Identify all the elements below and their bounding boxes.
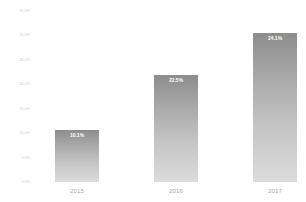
y-axis-tick-label: 5.0%: [0, 156, 30, 160]
y-axis-tick-label: 20.0%: [0, 82, 30, 86]
bar-value-label: 22.5%: [154, 77, 198, 83]
y-axis-tick-label: 15.0%: [0, 107, 30, 111]
y-axis-tick-label: 10.0%: [0, 131, 30, 135]
y-axis-tick-label: 30.0%: [0, 33, 30, 37]
x-axis-category-label: 2017: [245, 187, 305, 194]
bar-2017[interactable]: 24.1%: [253, 33, 297, 182]
bar-group-2017: 24.1% 2017: [253, 33, 297, 182]
bar-chart: 35.0% 30.0% 25.0% 20.0% 15.0% 10.0% 5.0%…: [0, 0, 306, 202]
y-axis-tick-label: 25.0%: [0, 58, 30, 62]
y-axis-tick-label: 35.0%: [0, 9, 30, 13]
plot-area: 10.1% 2015 22.5% 2016 24.1% 2017: [34, 0, 306, 202]
y-axis-tick-label: 0.0%: [0, 180, 30, 184]
bar-value-label: 24.1%: [253, 35, 297, 41]
x-axis-category-label: 2015: [47, 187, 107, 194]
bar-2016[interactable]: 22.5%: [154, 75, 198, 182]
x-axis-category-label: 2016: [146, 187, 206, 194]
bar-group-2016: 22.5% 2016: [154, 75, 198, 182]
bar-2015[interactable]: 10.1%: [55, 130, 99, 182]
bar-value-label: 10.1%: [55, 132, 99, 138]
y-axis: 35.0% 30.0% 25.0% 20.0% 15.0% 10.0% 5.0%…: [0, 0, 34, 202]
bar-group-2015: 10.1% 2015: [55, 130, 99, 182]
